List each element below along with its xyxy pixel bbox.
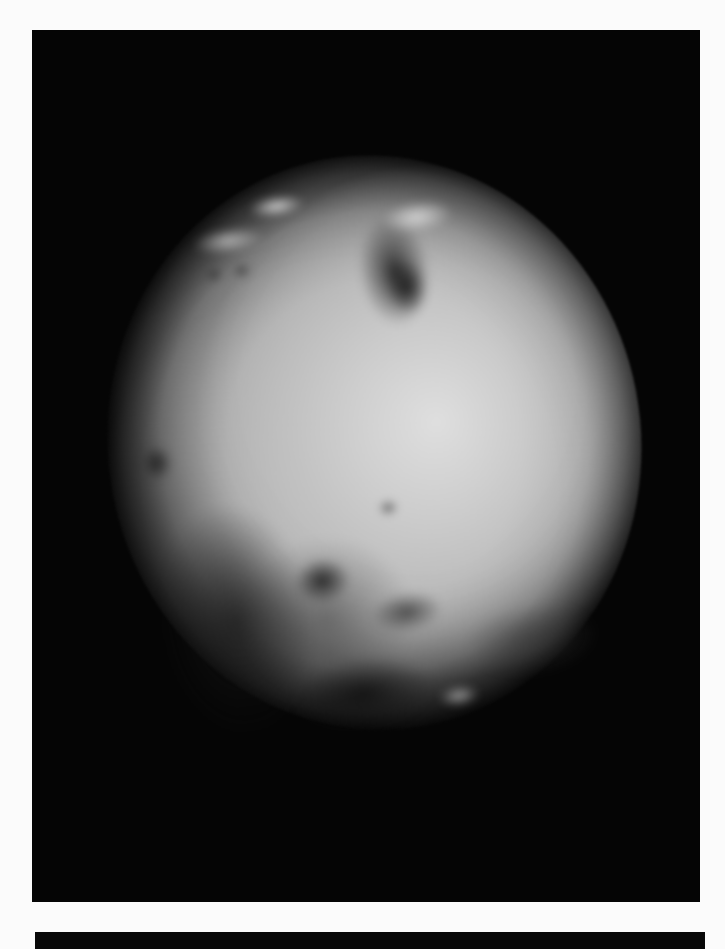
dark-spot-small-b [232,263,252,279]
dark-spot-center [378,500,398,516]
next-photo-edge [35,932,705,949]
bright-spot-south [438,683,480,708]
moon-disk [71,121,679,765]
bright-cap-north [248,193,305,220]
moon-photograph [32,30,700,902]
bright-streak-nw [192,224,265,258]
dark-spot-west [139,444,174,483]
dark-mottling-se [463,596,601,683]
dark-spot-small-a [204,267,224,283]
